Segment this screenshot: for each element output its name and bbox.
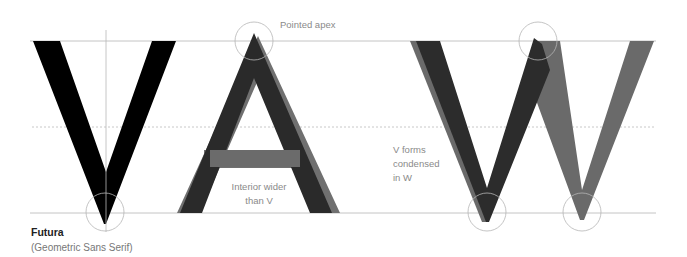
interior-annotation-line1: Interior wider xyxy=(226,180,292,194)
w-annotation-line3: in W xyxy=(393,171,439,185)
w-annotation: V forms condensed in W xyxy=(393,143,439,185)
apex-annotation: Pointed apex xyxy=(280,18,335,32)
interior-annotation: Interior wider than V xyxy=(226,180,292,208)
typeface-classification: (Geometric Sans Serif) xyxy=(31,242,133,253)
letter-v xyxy=(33,30,176,232)
w-annotation-line1: V forms xyxy=(393,143,439,157)
w-annotation-line2: condensed xyxy=(393,157,439,171)
typeface-name: Futura xyxy=(31,226,64,238)
interior-annotation-line2: than V xyxy=(226,194,292,208)
typeface-diagram xyxy=(0,0,687,257)
